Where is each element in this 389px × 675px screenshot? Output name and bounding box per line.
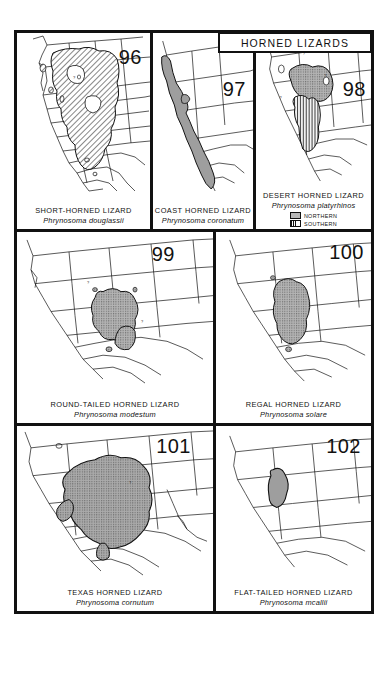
scientific-name-99: Phrynosoma modestum [17,410,213,419]
map-panel-101[interactable]: ? 101 TEXAS HORNED LIZARD Phrynosoma cor… [17,426,213,611]
caption-102: FLAT-TAILED HORNED LIZARD Phrynosoma mca… [216,588,371,607]
common-name-99: ROUND-TAILED HORNED LIZARD [17,400,213,409]
plate-row-middle: ? ? 99 ROUND-TAILED HORNED LIZARD Phryno… [17,229,371,423]
caption-100: REGAL HORNED LIZARD Phrynosoma solare [216,400,371,419]
svg-text:?: ? [141,319,144,324]
scientific-name-98: Phrynosoma platyrhinos [256,201,371,210]
legend-row-northern: NORTHERN [290,212,337,219]
plate-header-box: HORNED LIZARDS [218,32,372,53]
plate-frame: ? 96 SHORT-HORNED LIZARD Phrynosoma doug… [14,30,374,614]
caption-98: DESERT HORNED LIZARD Phrynosoma platyrhi… [256,191,371,227]
caption-96: SHORT-HORNED LIZARD Phrynosoma douglassi… [17,206,150,225]
plate-number-97: 97 [223,79,246,99]
caption-99: ROUND-TAILED HORNED LIZARD Phrynosoma mo… [17,400,213,419]
plate-number-99: 99 [152,244,175,264]
common-name-101: TEXAS HORNED LIZARD [17,588,213,597]
common-name-96: SHORT-HORNED LIZARD [17,206,150,215]
scientific-name-97: Phrynosoma coronatum [153,216,253,225]
plate-number-102: 102 [326,436,361,456]
map-panel-99[interactable]: ? ? 99 ROUND-TAILED HORNED LIZARD Phryno… [17,232,213,423]
map-legend: NORTHERN SOUTHERN [256,212,371,227]
legend-label-northern: NORTHERN [304,213,337,219]
legend-label-southern: SOUTHERN [304,221,337,227]
map-panel-96[interactable]: ? 96 SHORT-HORNED LIZARD Phrynosoma doug… [17,33,150,229]
scientific-name-101: Phrynosoma cornutum [17,598,213,607]
svg-text:?: ? [87,280,90,285]
common-name-98: DESERT HORNED LIZARD [256,191,371,200]
common-name-97: COAST HORNED LIZARD [153,206,253,215]
legend-row-southern: SOUTHERN [290,220,337,227]
map-panel-102[interactable]: 102 FLAT-TAILED HORNED LIZARD Phrynosoma… [213,426,371,611]
map-panel-98[interactable]: ? ? ? 98 DESERT HORNED LIZARD Phrynosoma… [253,33,371,229]
scientific-name-96: Phrynosoma douglassii [17,216,150,225]
common-name-100: REGAL HORNED LIZARD [216,400,371,409]
plate-number-96: 96 [119,47,142,67]
northern-swatch-icon [290,212,301,219]
plate-row-top: ? 96 SHORT-HORNED LIZARD Phrynosoma doug… [17,33,371,229]
map-panel-97[interactable]: 97 COAST HORNED LIZARD Phrynosoma corona… [150,33,253,229]
plate-row-bottom: ? 101 TEXAS HORNED LIZARD Phrynosoma cor… [17,423,371,611]
caption-97: COAST HORNED LIZARD Phrynosoma coronatum [153,206,253,225]
scientific-name-102: Phrynosoma mcallii [216,598,371,607]
range-map-97 [153,33,253,195]
caption-101: TEXAS HORNED LIZARD Phrynosoma cornutum [17,588,213,607]
plate-number-101: 101 [156,436,191,456]
plate-header-title: HORNED LIZARDS [241,37,349,49]
scientific-name-100: Phrynosoma solare [216,410,371,419]
plate-number-98: 98 [343,79,366,99]
plate-number-100: 100 [329,242,364,262]
map-panel-100[interactable]: 100 REGAL HORNED LIZARD Phrynosoma solar… [213,232,371,423]
common-name-102: FLAT-TAILED HORNED LIZARD [216,588,371,597]
range-map-98: ? ? ? [256,33,371,183]
range-map-99: ? ? [17,232,213,389]
svg-text:?: ? [279,95,282,100]
southern-swatch-icon [290,220,301,227]
